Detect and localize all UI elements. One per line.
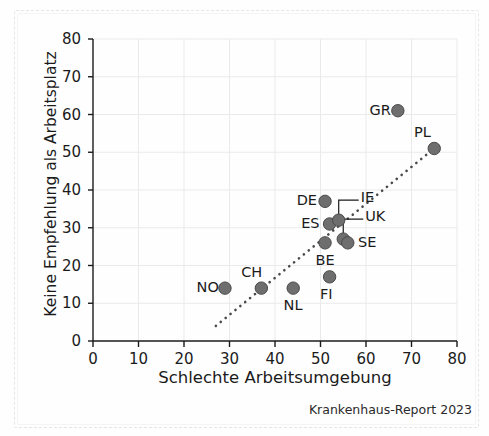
point-label-fi: FI (320, 287, 333, 302)
x-axis-title: Schlechte Arbeitsumgebung (93, 368, 457, 387)
gridlines (93, 39, 457, 341)
figure-page: 01020304050607080 01020304050607080 NOCH… (0, 0, 489, 436)
x-tick-label: 70 (392, 352, 432, 367)
point-label-be: BE (315, 253, 334, 268)
point-label-de: DE (297, 193, 317, 208)
x-tick-label: 50 (301, 352, 341, 367)
x-tick-label: 0 (73, 352, 113, 367)
x-tick-label: 30 (210, 352, 250, 367)
x-tick-label: 80 (437, 352, 477, 367)
source-note: Krankenhaus-Report 2023 (0, 402, 472, 417)
point-label-pl: PL (414, 125, 431, 140)
axis-ticks (88, 39, 457, 347)
point-label-no: NO (197, 280, 219, 295)
x-tick-label: 20 (164, 352, 204, 367)
point-label-gr: GR (369, 103, 390, 118)
point-label-uk: UK (365, 209, 385, 224)
point-label-es: ES (301, 216, 319, 231)
point-label-se: SE (358, 235, 376, 250)
point-label-ie: IE (361, 190, 374, 205)
x-tick-label: 60 (346, 352, 386, 367)
x-tick-label: 40 (255, 352, 295, 367)
x-tick-label: 10 (119, 352, 159, 367)
scatter-chart: 01020304050607080 01020304050607080 NOCH… (0, 0, 489, 436)
y-axis-title: Keine Empfehlung als Arbeitsplatz (42, 29, 60, 339)
point-label-nl: NL (284, 298, 303, 313)
point-label-ch: CH (241, 265, 262, 280)
